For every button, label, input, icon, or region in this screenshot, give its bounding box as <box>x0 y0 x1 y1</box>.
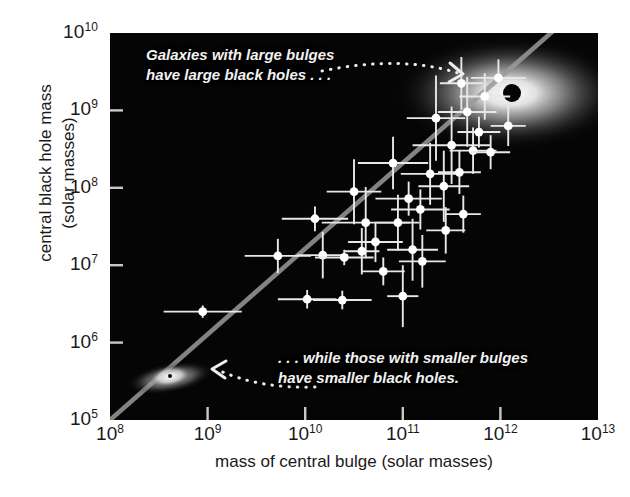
data-point <box>313 291 372 310</box>
data-point-marker <box>426 169 435 178</box>
data-point-marker <box>432 114 441 123</box>
annotation-top-line1: Galaxies with large bulges <box>146 45 334 65</box>
data-point-marker <box>469 146 478 155</box>
x-tick-label: 1011 <box>371 424 435 443</box>
data-point-marker <box>357 247 366 256</box>
data-point-marker <box>379 267 388 276</box>
data-point-marker <box>350 187 359 196</box>
data-point <box>387 265 418 327</box>
data-point-marker <box>398 292 407 301</box>
x-tick-label: 108 <box>78 424 142 443</box>
data-point-marker <box>441 226 450 235</box>
y-tick-label: 106 <box>34 332 98 351</box>
x-tick-label: 1012 <box>468 424 532 443</box>
data-point-marker <box>361 218 370 227</box>
data-point-marker <box>340 253 349 262</box>
annotation-top-line2: have large black holes . . . <box>146 65 334 85</box>
y-tick-label: 1010 <box>34 22 98 41</box>
x-tick-label: 1010 <box>273 424 337 443</box>
data-point-marker <box>389 159 398 168</box>
data-point <box>282 206 348 231</box>
data-point <box>348 222 403 262</box>
data-point-marker <box>416 205 425 214</box>
annotation-bottom-line2: have smaller black holes. <box>278 368 528 388</box>
data-point-marker <box>504 121 513 130</box>
data-point-marker <box>394 218 403 227</box>
y-axis-title: central black hole mass (solar masses) <box>34 58 80 288</box>
data-point-marker <box>418 257 427 266</box>
black-hole-dot <box>503 84 521 102</box>
data-point-marker <box>486 148 495 157</box>
figure-black-hole-bulge-mass-relation: Galaxies with large bulges have large bl… <box>0 0 630 497</box>
y-axis-title-line1: central black hole mass <box>34 58 57 288</box>
data-point-marker <box>198 307 207 316</box>
y-axis-title-line2: (solar masses) <box>57 58 80 288</box>
x-tick-label: 109 <box>176 424 240 443</box>
data-point-marker <box>311 214 320 223</box>
data-point <box>344 228 379 274</box>
data-point-marker <box>475 128 484 137</box>
data-point <box>446 196 481 233</box>
data-point-marker <box>303 295 312 304</box>
data-point-marker <box>494 73 503 82</box>
plot-panel: Galaxies with large bulges have large bl… <box>110 33 598 420</box>
data-point-marker <box>408 245 417 254</box>
annotation-bottom: . . . while those with smaller bulges ha… <box>278 348 528 388</box>
data-point-marker <box>439 182 448 191</box>
data-point <box>399 235 446 288</box>
x-tick-label: 1013 <box>566 424 630 443</box>
data-point-marker <box>480 92 489 101</box>
data-point-marker <box>371 238 380 247</box>
data-point <box>362 257 405 285</box>
x-axis-title: mass of central bulge (solar masses) <box>110 452 598 472</box>
data-point-marker <box>273 252 282 261</box>
data-point-marker <box>459 210 468 219</box>
annotation-top: Galaxies with large bulges have large bl… <box>146 45 334 85</box>
data-point-marker <box>463 108 472 117</box>
annotation-bottom-line1: . . . while those with smaller bulges <box>278 348 528 368</box>
data-point-marker <box>447 141 456 150</box>
data-point-marker <box>457 79 466 88</box>
data-point-marker <box>455 168 464 177</box>
data-point-marker <box>338 296 347 305</box>
data-point-marker <box>404 194 413 203</box>
large-elliptical-galaxy-glow <box>392 35 598 151</box>
data-point <box>327 159 382 224</box>
